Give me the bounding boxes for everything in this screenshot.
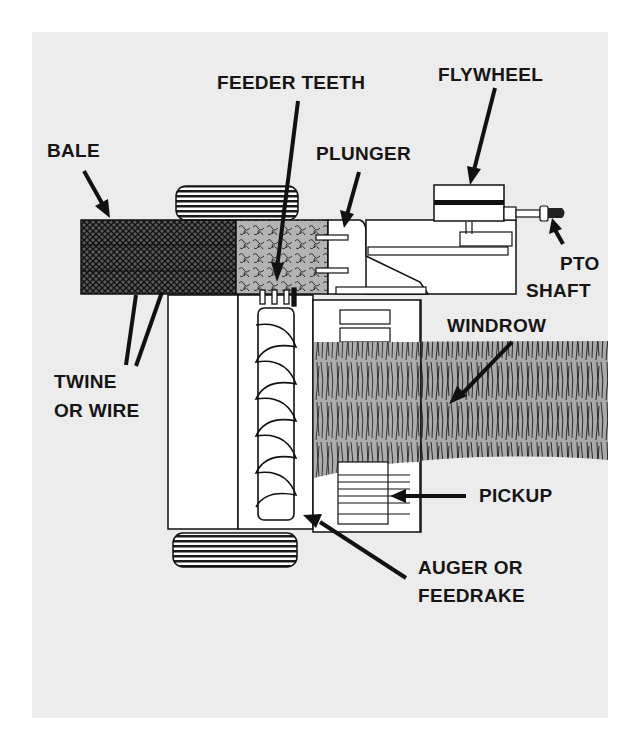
- flywheel: [434, 185, 516, 221]
- label-auger-line1: AUGER OR: [418, 557, 523, 579]
- pto-shaft: [516, 206, 565, 221]
- label-twine-line1: TWINE: [54, 371, 117, 393]
- label-pto-line2: SHAFT: [526, 280, 591, 302]
- upper-tire: [176, 186, 298, 220]
- chassis-left: [168, 295, 238, 529]
- bale: [81, 220, 236, 294]
- label-twine-line2: OR WIRE: [54, 400, 140, 422]
- label-bale: BALE: [47, 140, 100, 162]
- label-flywheel: FLYWHEEL: [438, 64, 543, 86]
- label-pto-line1: PTO: [560, 253, 600, 275]
- label-windrow: WINDROW: [447, 315, 546, 337]
- label-feeder-teeth: FEEDER TEETH: [217, 72, 365, 94]
- label-auger-line2: FEEDRAKE: [418, 585, 525, 607]
- auger: [256, 308, 296, 520]
- label-pickup: PICKUP: [479, 485, 553, 507]
- lower-tire: [173, 533, 297, 567]
- label-plunger: PLUNGER: [316, 143, 411, 165]
